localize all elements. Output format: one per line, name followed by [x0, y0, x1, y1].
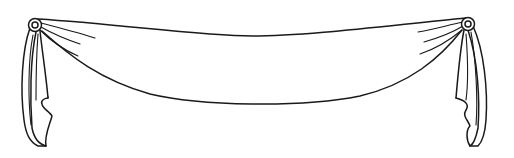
left-tail	[22, 28, 52, 146]
drapery-swag-illustration	[0, 0, 514, 158]
swag-drawing	[0, 0, 514, 158]
right-rosette	[462, 18, 475, 31]
right-tail	[456, 26, 486, 146]
swag	[38, 18, 466, 104]
left-rosette	[29, 19, 42, 32]
